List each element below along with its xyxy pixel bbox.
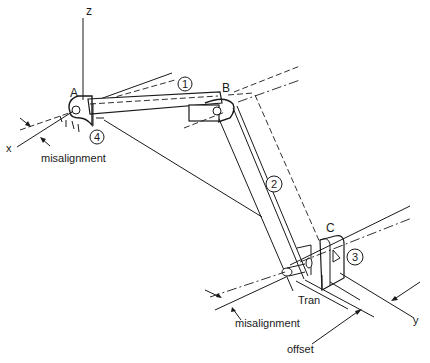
tran-label: Tran [298, 294, 320, 306]
misalignment-label-a: misalignment [41, 152, 106, 164]
offset-label: offset [287, 343, 314, 355]
joint-a-label: A [70, 86, 78, 100]
misalignment-c: misalignment [205, 272, 300, 329]
ground-line [104, 120, 262, 217]
mechanism-diagram: z x misalignment 1 A 4 [0, 0, 430, 363]
link-2: 2 [219, 95, 332, 291]
offset-annotation: offset [287, 309, 362, 355]
link-2-number: 2 [271, 178, 277, 190]
y-axis-label: y [413, 314, 419, 326]
z-axis: z [83, 4, 92, 100]
link-3-number: 3 [352, 251, 358, 263]
link-1-number: 1 [182, 78, 188, 90]
link-4-number: 4 [94, 131, 100, 143]
x-axis-label: x [6, 142, 12, 154]
joint-b-label: B [222, 81, 230, 95]
z-axis-label: z [86, 4, 92, 18]
misalignment-label-c: misalignment [235, 317, 300, 329]
joint-c-label: C [326, 221, 335, 235]
